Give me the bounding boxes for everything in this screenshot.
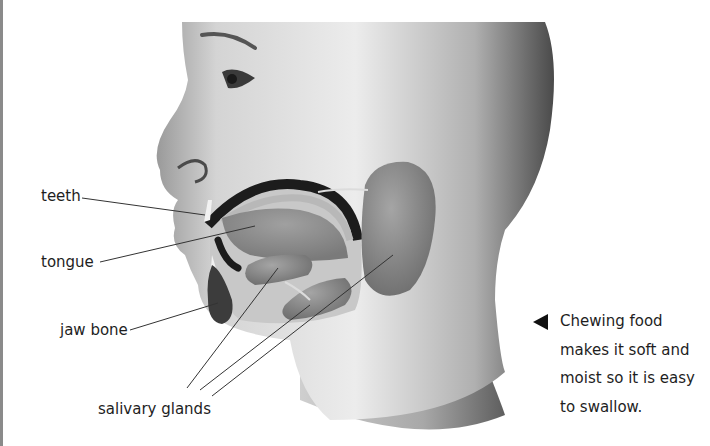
label-teeth: teeth: [41, 187, 81, 205]
caption-line: makes it soft and: [560, 336, 710, 365]
caption-line: moist so it is easy: [560, 364, 710, 393]
leader-line-jaw-bone: [130, 303, 218, 330]
eye-pupil: [227, 74, 237, 84]
caption-line: Chewing food: [560, 307, 710, 336]
label-tongue: tongue: [41, 253, 94, 271]
caption-line: to swallow.: [560, 393, 710, 422]
label-jaw-bone: jaw bone: [60, 321, 128, 339]
left-pointing-triangle-icon: [533, 314, 548, 330]
caption-text: Chewing food makes it soft and moist so …: [560, 307, 710, 421]
label-salivary-glands: salivary glands: [98, 400, 211, 418]
